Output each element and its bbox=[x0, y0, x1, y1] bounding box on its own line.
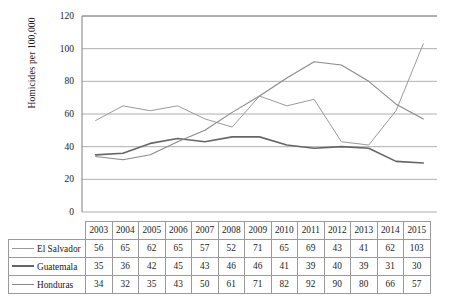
table-cell: 45 bbox=[165, 257, 192, 275]
swatch-bar bbox=[12, 265, 34, 267]
table-cell: 46 bbox=[245, 257, 272, 275]
table-cell: 40 bbox=[324, 257, 351, 275]
table-year-header-2003: 2003 bbox=[86, 222, 113, 240]
table-cell: 52 bbox=[218, 239, 245, 257]
table-cell: 90 bbox=[324, 275, 351, 293]
legend-line-swatch-icon bbox=[12, 265, 34, 267]
table-year-header-2010: 2010 bbox=[271, 222, 298, 240]
table-cell: 50 bbox=[192, 275, 219, 293]
table-header-row: 2003200420052006200720082009201020112012… bbox=[9, 222, 431, 240]
chart-plot-area: Homicides per 100,000 120100806040200 bbox=[0, 0, 458, 220]
table-cell: 34 bbox=[86, 275, 113, 293]
table-cell: 57 bbox=[192, 239, 219, 257]
series-line-guatemala bbox=[96, 137, 424, 163]
table-cell: 32 bbox=[112, 275, 139, 293]
series-name-label: Honduras bbox=[37, 279, 73, 289]
swatch-bar bbox=[12, 284, 34, 285]
table-cell: 103 bbox=[404, 239, 431, 257]
table-cell: 43 bbox=[192, 257, 219, 275]
table-year-header-2006: 2006 bbox=[165, 222, 192, 240]
data-table: 2003200420052006200720082009201020112012… bbox=[8, 221, 431, 294]
homicide-rate-figure: Homicides per 100,000 120100806040200 20… bbox=[0, 0, 458, 299]
table-cell: 92 bbox=[298, 275, 325, 293]
table-cell: 41 bbox=[351, 239, 378, 257]
table-cell: 39 bbox=[298, 257, 325, 275]
table-cell: 57 bbox=[404, 275, 431, 293]
line-chart-svg bbox=[0, 0, 458, 220]
table-cell: 65 bbox=[271, 239, 298, 257]
legend-item-honduras: Honduras bbox=[9, 275, 86, 293]
table-cell: 61 bbox=[218, 275, 245, 293]
table-row: El Salvador566562655752716569434162103 bbox=[9, 239, 431, 257]
table-body: El Salvador566562655752716569434162103Gu… bbox=[9, 239, 431, 293]
table-cell: 62 bbox=[139, 239, 166, 257]
table-cell: 66 bbox=[377, 275, 404, 293]
table-year-header-2007: 2007 bbox=[192, 222, 219, 240]
series-name-label: El Salvador bbox=[37, 243, 81, 253]
table-cell: 56 bbox=[86, 239, 113, 257]
table-cell: 46 bbox=[218, 257, 245, 275]
table-cell: 62 bbox=[377, 239, 404, 257]
table-year-header-2012: 2012 bbox=[324, 222, 351, 240]
series-name-label: Guatemala bbox=[37, 261, 77, 271]
table-year-header-2004: 2004 bbox=[112, 222, 139, 240]
table-cell: 36 bbox=[112, 257, 139, 275]
legend-line-swatch-icon bbox=[12, 248, 34, 249]
series-line-el-salvador bbox=[96, 44, 424, 145]
table-cell: 71 bbox=[245, 275, 272, 293]
table-cell: 31 bbox=[377, 257, 404, 275]
legend-item-guatemala: Guatemala bbox=[9, 257, 86, 275]
swatch-bar bbox=[12, 248, 34, 249]
table-corner-cell bbox=[9, 222, 86, 240]
table-cell: 65 bbox=[112, 239, 139, 257]
table-year-header-2011: 2011 bbox=[298, 222, 325, 240]
table-cell: 41 bbox=[271, 257, 298, 275]
table-cell: 35 bbox=[86, 257, 113, 275]
table-year-header-2014: 2014 bbox=[377, 222, 404, 240]
table-cell: 39 bbox=[351, 257, 378, 275]
table-cell: 65 bbox=[165, 239, 192, 257]
table-row: Honduras34323543506171829290806657 bbox=[9, 275, 431, 293]
table-year-header-2015: 2015 bbox=[404, 222, 431, 240]
table-year-header-2013: 2013 bbox=[351, 222, 378, 240]
table-cell: 43 bbox=[324, 239, 351, 257]
table-cell: 69 bbox=[298, 239, 325, 257]
table-cell: 43 bbox=[165, 275, 192, 293]
table-row: Guatemala35364245434646413940393130 bbox=[9, 257, 431, 275]
table-cell: 80 bbox=[351, 275, 378, 293]
table-cell: 82 bbox=[271, 275, 298, 293]
table-cell: 30 bbox=[404, 257, 431, 275]
table-year-header-2005: 2005 bbox=[139, 222, 166, 240]
legend-line-swatch-icon bbox=[12, 284, 34, 285]
legend-item-el-salvador: El Salvador bbox=[9, 239, 86, 257]
table-cell: 35 bbox=[139, 275, 166, 293]
table-year-header-2008: 2008 bbox=[218, 222, 245, 240]
table-year-header-2009: 2009 bbox=[245, 222, 272, 240]
table-cell: 71 bbox=[245, 239, 272, 257]
table-cell: 42 bbox=[139, 257, 166, 275]
